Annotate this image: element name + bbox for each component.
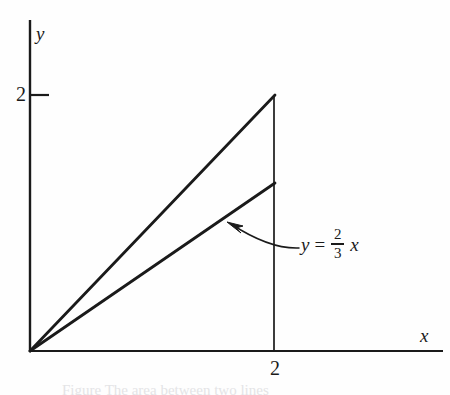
annotation-arrow-head	[227, 222, 243, 233]
line-y-equals-two-thirds-x	[30, 183, 275, 351]
figure-graph-region: y x 2 2 y = 2 3 x Figure The area betwee…	[0, 0, 450, 395]
y-tick-label-2: 2	[8, 84, 26, 104]
equation-operator: =	[314, 234, 325, 256]
figure-caption: Figure The area between two lines	[62, 383, 392, 395]
equation-annotation-label: y = 2 3 x	[301, 228, 359, 262]
equation-variable: x	[350, 234, 358, 256]
x-tick-label-2: 2	[265, 358, 285, 378]
annotation-arrow-curve	[231, 224, 299, 248]
equation-lhs: y	[301, 234, 309, 256]
line-y-equals-x	[30, 95, 275, 351]
equation-numerator: 2	[332, 227, 344, 242]
y-axis-name-label: y	[36, 24, 44, 43]
equation-denominator: 3	[332, 246, 344, 261]
equation-fraction: 2 3	[331, 227, 344, 261]
x-axis-name-label: x	[420, 326, 428, 345]
plot-svg	[0, 0, 450, 395]
